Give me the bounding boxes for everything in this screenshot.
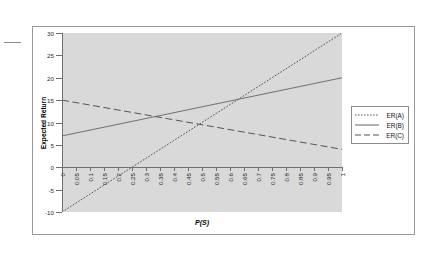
x-tick-label: 0.65	[241, 173, 248, 185]
x-tick-label: 0	[59, 173, 66, 176]
x-tick	[216, 167, 217, 171]
margin-dash-mark	[4, 42, 21, 43]
x-tick-label: 0.95	[325, 173, 332, 185]
chart-legend: ER(A) ER(B) ER(C)	[351, 106, 409, 144]
x-tick-label: 0.5	[199, 173, 206, 182]
legend-label: ER(B)	[380, 122, 406, 129]
x-tick-label: 0.9	[311, 173, 318, 182]
x-tick	[90, 167, 91, 171]
x-tick-label: 0.75	[269, 173, 276, 185]
x-tick	[104, 167, 105, 171]
x-tick-label: 0.15	[101, 173, 108, 185]
x-tick	[188, 167, 189, 171]
x-tick	[286, 167, 287, 171]
y-axis-line	[62, 33, 63, 212]
series-lines	[62, 33, 342, 212]
legend-key-dashed-icon	[354, 131, 380, 139]
x-tick-label: 0.35	[157, 173, 164, 185]
y-tick-label: -5	[32, 186, 54, 193]
x-tick	[174, 167, 175, 171]
x-tick-label: 0.1	[87, 173, 94, 182]
legend-item: ER(B)	[354, 120, 406, 130]
x-tick	[146, 167, 147, 171]
series-line-erc	[62, 100, 342, 149]
x-tick-label: 0.05	[73, 173, 80, 185]
chart-figure: Expected Return -10-5051015202530 00.050…	[0, 0, 434, 254]
x-tick-label: 0.55	[213, 173, 220, 185]
y-tick-label: 20	[32, 74, 54, 81]
x-tick-label: 1	[339, 173, 346, 176]
legend-item: ER(A)	[354, 110, 406, 120]
x-tick-label: 0.6	[227, 173, 234, 182]
chart-frame: Expected Return -10-5051015202530 00.050…	[32, 26, 415, 235]
y-tick-label: -10	[32, 209, 54, 216]
legend-item: ER(C)	[354, 130, 406, 140]
x-tick-label: 0.8	[283, 173, 290, 182]
x-tick-label: 0.3	[143, 173, 150, 182]
y-tick-labels: -10-5051015202530	[33, 27, 54, 234]
y-tick-label: 0	[32, 164, 54, 171]
x-tick	[258, 167, 259, 171]
x-tick-label: 0.45	[185, 173, 192, 185]
x-tick	[62, 167, 63, 171]
x-tick-label: 0.2	[115, 173, 122, 182]
x-tick	[118, 167, 119, 171]
x-tick	[342, 167, 343, 171]
x-tick	[244, 167, 245, 171]
x-tick	[202, 167, 203, 171]
series-line-erb	[62, 78, 342, 136]
y-tick	[56, 212, 62, 213]
plot-area	[62, 33, 342, 212]
y-tick-label: 25	[32, 52, 54, 59]
x-tick	[132, 167, 133, 171]
x-tick-label: 0.4	[171, 173, 178, 182]
y-tick-label: 30	[32, 30, 54, 37]
legend-key-dotted-icon	[354, 111, 380, 119]
y-tick-label: 10	[32, 119, 54, 126]
x-tick-label: 0.85	[297, 173, 304, 185]
y-tick-label: 15	[32, 97, 54, 104]
legend-key-solid-icon	[354, 121, 380, 129]
x-tick-label: 0.7	[255, 173, 262, 182]
series-line-era	[62, 33, 342, 212]
y-tick-label: 5	[32, 141, 54, 148]
x-tick	[314, 167, 315, 171]
x-tick	[160, 167, 161, 171]
x-tick-label: 0.25	[129, 173, 136, 185]
legend-label: ER(A)	[380, 112, 406, 119]
x-axis-title: P(S)	[62, 219, 342, 226]
x-tick	[76, 167, 77, 171]
x-tick	[328, 167, 329, 171]
plot-wrapper: Expected Return -10-5051015202530 00.050…	[33, 27, 414, 234]
x-tick	[230, 167, 231, 171]
legend-label: ER(C)	[380, 132, 406, 139]
x-tick	[300, 167, 301, 171]
x-tick	[272, 167, 273, 171]
